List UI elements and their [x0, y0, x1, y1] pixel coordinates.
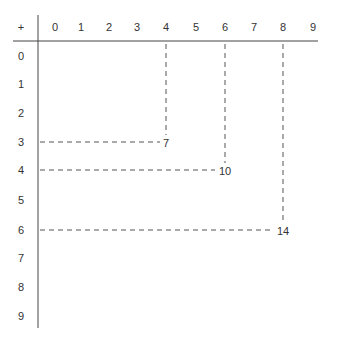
row-header: 4: [18, 164, 24, 176]
row-header: 5: [18, 194, 24, 206]
row-header: 1: [18, 78, 24, 90]
column-header: 5: [193, 21, 199, 33]
column-header: 7: [251, 21, 257, 33]
row-header: 3: [18, 136, 24, 148]
dashed-guides: [40, 44, 283, 230]
column-header: 4: [163, 21, 169, 33]
column-header: 1: [78, 21, 84, 33]
sum-label: 7: [163, 137, 169, 149]
column-header: 8: [280, 21, 286, 33]
column-header: 2: [106, 21, 112, 33]
row-header: 9: [18, 310, 24, 322]
column-header: 0: [52, 21, 58, 33]
row-header: 8: [18, 281, 24, 293]
row-header: 7: [18, 252, 24, 264]
sum-label: 14: [277, 225, 289, 237]
row-header: 0: [18, 50, 24, 62]
sum-label: 10: [219, 165, 231, 177]
column-header: 3: [134, 21, 140, 33]
column-header: 6: [222, 21, 228, 33]
column-header: 9: [310, 21, 316, 33]
row-header: 6: [18, 224, 24, 236]
row-header: 2: [18, 107, 24, 119]
operator-symbol: +: [18, 21, 24, 33]
grid-lines: [0, 0, 342, 345]
